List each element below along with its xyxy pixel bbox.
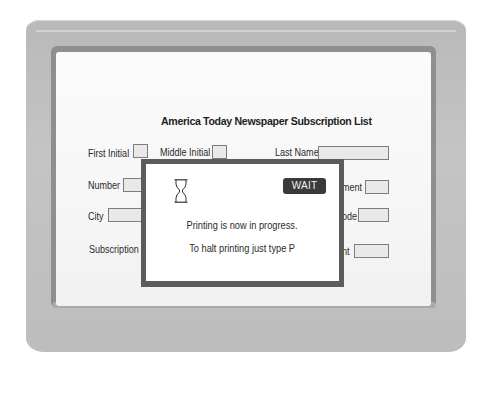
number-label: Number [88, 179, 120, 191]
city-label: City [88, 210, 104, 222]
apartment-field[interactable] [365, 180, 389, 194]
bezel-highlight [36, 30, 456, 32]
halt-instruction-text: To halt printing just type P [190, 242, 296, 254]
amount-field[interactable] [354, 244, 389, 258]
zip-code-field[interactable] [358, 208, 389, 222]
printing-dialog: WAIT Printing is now in progress. To hal… [141, 159, 344, 287]
apartment-label: ment [342, 181, 362, 193]
first-initial-field[interactable] [133, 144, 148, 158]
middle-initial-label: Middle Initial [160, 146, 210, 158]
wait-badge: WAIT [283, 178, 326, 194]
zip-code-label: ode [342, 210, 357, 222]
form-title: America Today Newspaper Subscription Lis… [161, 115, 372, 127]
hourglass-icon [174, 179, 188, 203]
first-initial-label: First Initial [88, 147, 129, 159]
subscription-label: Subscription L [89, 243, 146, 255]
middle-initial-field[interactable] [212, 145, 227, 159]
dialog-body: WAIT Printing is now in progress. To hal… [146, 164, 339, 281]
halt-instruction: To halt printing just type P [146, 242, 339, 254]
city-field[interactable] [108, 208, 145, 222]
last-name-label: Last Name [275, 146, 319, 158]
progress-message: Printing is now in progress. [146, 219, 339, 231]
last-name-field[interactable] [318, 146, 389, 160]
progress-message-text: Printing is now in progress. [187, 219, 298, 231]
